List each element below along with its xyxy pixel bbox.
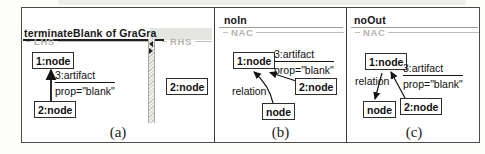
nac-node-2: 2:node: [400, 98, 442, 115]
rhs-node-2: 2:node: [166, 78, 208, 95]
nac-node-3: node: [363, 101, 396, 118]
nac-group-header: NAC: [355, 28, 479, 38]
caption-b: (b): [215, 124, 346, 141]
figure-frame: terminateBlank of GraGra LHS 1:node 3:ar…: [21, 7, 480, 143]
panel-a-rule-window: terminateBlank of GraGra LHS 1:node 3:ar…: [22, 8, 214, 142]
artifact-edge-label: 3:artifact prop="blank": [403, 62, 463, 90]
edge-attr-text: prop="blank": [403, 76, 463, 90]
divider-collapse-right-icon: [149, 48, 153, 54]
panel-b-nac-window: noIn NAC 1:node 3:artifact prop="blank" …: [214, 8, 346, 142]
nac-group-label: NAC: [231, 28, 253, 38]
edge-attr-text: prop="blank": [55, 83, 115, 97]
nac-node-1: 1:node: [233, 52, 275, 69]
panel-c-nac-window: noOut NAC 1:node relation 3:artifact pro…: [346, 8, 481, 142]
edge-type-text: 3:artifact: [274, 48, 334, 62]
group-border-tick: [355, 32, 360, 33]
group-border-line: [58, 41, 148, 42]
lhs-node-2: 2:node: [34, 101, 76, 118]
caption-c: (c): [347, 124, 481, 141]
nac-group-header: NAC: [223, 28, 344, 38]
nac-window-title: noOut: [354, 14, 386, 26]
nac-node-2: 2:node: [295, 78, 337, 95]
artifact-edge-label: 3:artifact prop="blank": [55, 69, 115, 97]
scan-smudge: [58, 0, 466, 5]
group-border-tick: [223, 32, 228, 33]
edge-type-text: 3:artifact: [403, 62, 463, 76]
nac-node-1: 1:node: [365, 53, 407, 70]
artifact-edge-label: 3:artifact prop="blank": [274, 48, 334, 76]
relation-edge-label: relation: [355, 75, 389, 87]
group-border-tick: [162, 41, 167, 42]
group-border-line: [256, 32, 344, 33]
edge-attr-text: prop="blank": [274, 62, 334, 76]
lhs-group-header: LHS: [26, 37, 148, 47]
lhs-group-label: LHS: [34, 37, 55, 47]
nac-group-label: NAC: [363, 28, 385, 38]
lhs-node-1: 1:node: [32, 52, 74, 69]
nac-window-title: noIn: [224, 14, 247, 26]
divider-collapse-left-icon: [149, 41, 153, 47]
nac-node-3: node: [262, 103, 295, 120]
edge-type-text: 3:artifact: [55, 69, 115, 83]
figure-canvas: terminateBlank of GraGra LHS 1:node 3:ar…: [0, 0, 485, 154]
caption-a: (a): [22, 124, 214, 141]
relation-edge-label: relation: [232, 85, 266, 97]
group-border-line: [388, 32, 479, 33]
rhs-group-header: RHS: [162, 37, 212, 47]
group-border-tick: [26, 41, 31, 42]
group-border-line: [195, 41, 212, 42]
rhs-group-label: RHS: [170, 37, 192, 47]
